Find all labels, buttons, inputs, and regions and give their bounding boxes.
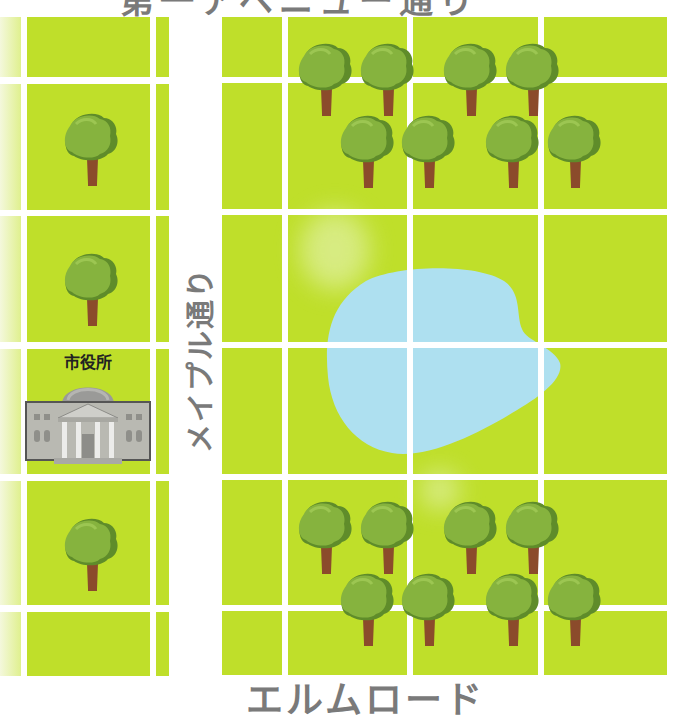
tree-icon (62, 252, 120, 326)
grass-cell (0, 349, 21, 474)
lake-shape (326, 267, 562, 459)
tree-icon (399, 114, 457, 188)
tree-icon (503, 42, 561, 116)
tree-icon (503, 500, 561, 574)
tree-icon (338, 572, 396, 646)
tree-icon (545, 114, 603, 188)
path-line (222, 342, 667, 348)
tree-icon (358, 42, 416, 116)
grass-cell (156, 216, 169, 342)
tree-icon (399, 572, 457, 646)
grass-cell (0, 216, 21, 342)
grass-cell (156, 84, 169, 210)
grass-cell (0, 84, 21, 210)
town-map: 第一アベニュー通り (0, 0, 675, 718)
grass-cell (27, 17, 150, 77)
city-hall-label: 市役所 (55, 349, 121, 373)
street-label-elm: エルムロード (246, 670, 485, 718)
street-label-maple: メイプル通り (177, 267, 219, 453)
grass-cell (156, 349, 169, 474)
grass-cell (0, 17, 21, 77)
grass-cell (156, 17, 169, 77)
tree-icon (338, 114, 396, 188)
tree-icon (483, 572, 541, 646)
city-hall-icon (24, 374, 152, 466)
tree-icon (358, 500, 416, 574)
tree-icon (62, 112, 120, 186)
tree-icon (545, 572, 603, 646)
tree-icon (296, 42, 354, 116)
grass-cell (0, 612, 21, 676)
path-line (222, 474, 667, 480)
tree-icon (441, 42, 499, 116)
grass-cell (156, 612, 169, 676)
grass-cell (27, 612, 150, 676)
grass-cell (0, 481, 21, 605)
path-line (222, 209, 667, 215)
tree-icon (296, 500, 354, 574)
grass-cell (156, 481, 169, 605)
tree-icon (483, 114, 541, 188)
tree-icon (62, 517, 120, 591)
tree-icon (441, 500, 499, 574)
